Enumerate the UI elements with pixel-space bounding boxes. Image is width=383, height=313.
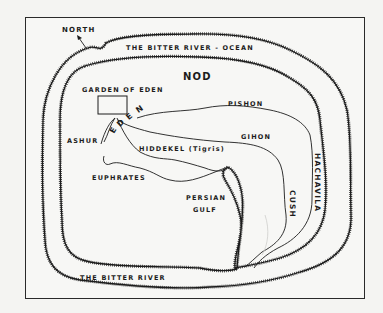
persian-gulf-label-line2: GULF <box>193 206 217 214</box>
north-label: NORTH <box>62 26 96 34</box>
ashur-label: ASHUR <box>67 137 98 145</box>
map-drawing: NORTH THE BITTER RIVER - OCEAN NOD GARDE… <box>0 0 383 313</box>
pishon-river <box>137 106 313 268</box>
north-arrow-icon <box>77 35 86 48</box>
garden-of-eden-box <box>98 96 127 114</box>
gihon-label: GIHON <box>241 133 271 141</box>
eden-letter-e1: E <box>108 125 119 135</box>
bitter-river-ocean-label: THE BITTER RIVER - OCEAN <box>126 44 254 52</box>
pishon-label: PISHON <box>228 100 263 108</box>
hachavila-label: HACHAVILA <box>313 153 322 212</box>
hiddekel-label: HIDDEKEL (Tigris) <box>139 145 225 153</box>
bitter-river-label: THE BITTER RIVER <box>80 274 166 282</box>
rivers <box>101 106 313 268</box>
cush-label: CUSH <box>288 190 297 218</box>
persian-gulf-label-line1: PERSIAN <box>186 194 226 202</box>
eden-letter-e2: E <box>124 111 135 122</box>
euphrates-label: EUPHRATES <box>92 174 146 182</box>
nod-label: NOD <box>183 71 212 82</box>
garden-of-eden-label: GARDEN OF EDEN <box>82 86 164 94</box>
eden-letter-n: N <box>134 103 146 115</box>
